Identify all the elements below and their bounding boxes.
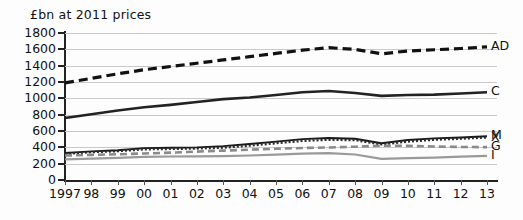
x-axis-tick [197, 180, 198, 185]
x-axis-tick [461, 180, 462, 185]
y-axis-tick [58, 179, 65, 181]
series-line-ad [65, 47, 487, 83]
x-axis-tick [276, 180, 277, 185]
x-axis-tick [434, 180, 435, 185]
x-axis-tick [91, 180, 92, 185]
x-axis-tick-label: 06 [294, 186, 310, 201]
y-axis-tick [58, 32, 65, 34]
x-axis-tick-label: 00 [136, 186, 152, 201]
x-axis-tick [223, 180, 224, 185]
x-axis-tick-label: 13 [479, 186, 495, 201]
x-axis-tick-label: 11 [426, 186, 442, 201]
y-axis-tick [58, 81, 65, 83]
series-label-ad: AD [491, 41, 509, 51]
x-axis-tick [487, 180, 488, 185]
chart-container: £bn at 2011 prices 020040060080010001200… [0, 0, 523, 220]
series-label-i: I [491, 150, 495, 160]
x-axis-tick [355, 180, 356, 185]
y-axis-tick [58, 130, 65, 132]
series-line-m [65, 136, 487, 153]
y-axis-tick [58, 146, 65, 148]
x-axis-tick [171, 180, 172, 185]
x-axis-tick [65, 180, 66, 185]
x-axis-tick-label: 1997 [49, 186, 81, 201]
y-axis-tick [58, 48, 65, 50]
x-axis-tick-label: 08 [347, 186, 363, 201]
y-axis-tick [58, 114, 65, 116]
x-axis-tick-label: 07 [321, 186, 337, 201]
x-axis-tick-label: 98 [83, 186, 99, 201]
x-axis-tick-label: 99 [110, 186, 126, 201]
x-axis-tick [382, 180, 383, 185]
x-axis-tick [144, 180, 145, 185]
series-line-i [65, 153, 487, 159]
x-axis-tick [329, 180, 330, 185]
x-axis-tick-label: 01 [163, 186, 179, 201]
x-axis-tick [250, 180, 251, 185]
x-axis-tick [408, 180, 409, 185]
series-line-c [65, 91, 487, 118]
x-axis-tick [118, 180, 119, 185]
x-axis-tick-label: 10 [400, 186, 416, 201]
x-axis-tick-label: 03 [215, 186, 231, 201]
x-axis-tick-label: 09 [374, 186, 390, 201]
series-label-c: C [491, 86, 500, 96]
x-axis-tick-label: 02 [189, 186, 205, 201]
x-axis-tick-label: 12 [453, 186, 469, 201]
x-axis-tick-label: 05 [268, 186, 284, 201]
x-axis-tick-label: 04 [242, 186, 258, 201]
x-axis-tick [302, 180, 303, 185]
y-axis-tick [58, 65, 65, 67]
y-axis-tick [58, 97, 65, 99]
y-axis-tick [58, 163, 65, 165]
